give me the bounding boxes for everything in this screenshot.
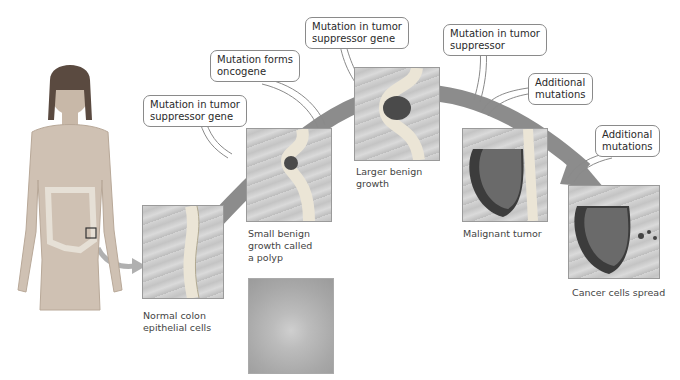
panel-normal-colon <box>142 205 224 299</box>
callout-additional-mutations-2: Additional mutations <box>595 125 660 157</box>
panel-larger-benign <box>354 67 440 161</box>
panel-small-polyp <box>246 128 332 222</box>
human-figure-illustration <box>10 60 130 360</box>
caption-normal: Normal colon epithelial cells <box>143 310 211 334</box>
callout-tumor-suppressor-1: Mutation in tumor suppressor gene <box>143 95 247 127</box>
callout-oncogene: Mutation forms oncogene <box>210 50 300 82</box>
caption-polyp: Small benign growth called a polyp <box>248 228 312 264</box>
callout-tumor-suppressor-3: Mutation in tumor suppressor <box>443 24 547 56</box>
callout-additional-mutations-1: Additional mutations <box>528 73 593 105</box>
caption-spread: Cancer cells spread <box>572 287 665 299</box>
polyp-endoscopy-photo <box>248 278 334 374</box>
callout-tumor-suppressor-2: Mutation in tumor suppressor gene <box>305 17 409 49</box>
panel-malignant-tumor <box>462 128 548 222</box>
panel-cancer-spread <box>568 185 660 279</box>
caption-larger-benign: Larger benign growth <box>356 166 422 190</box>
caption-malignant: Malignant tumor <box>463 228 542 240</box>
